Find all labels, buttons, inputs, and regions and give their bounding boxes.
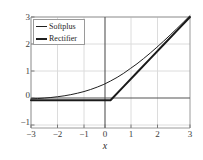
- y-tick-label-1: 1: [12, 67, 30, 76]
- x-tick-label-neg2: −2: [49, 130, 67, 139]
- x-tick-label-neg1: −1: [75, 130, 93, 139]
- legend-item-softplus: Softplus: [36, 21, 76, 32]
- legend-line-icon-softplus: [36, 26, 47, 27]
- y-tick-label-3: 3: [12, 13, 30, 22]
- y-tick-label-neg1: −1: [12, 118, 30, 127]
- x-tick-label-neg3: −3: [22, 130, 40, 139]
- x-tick-label-2: 2: [149, 130, 167, 139]
- y-tick-label-2: 2: [12, 40, 30, 49]
- softplus-rectifier-chart: 3 2 1 0 −1 −3 −2 −1 0 1 2 3 x Softplus R…: [0, 0, 203, 160]
- legend: Softplus Rectifier: [33, 19, 85, 45]
- y-tick-label-0: 0: [12, 91, 30, 100]
- x-axis-label: x: [96, 141, 114, 151]
- legend-line-icon-rectifier: [36, 38, 47, 40]
- legend-label-softplus: Softplus: [49, 23, 76, 31]
- legend-label-rectifier: Rectifier: [49, 35, 77, 43]
- x-tick-label-0: 0: [96, 130, 114, 139]
- legend-item-rectifier: Rectifier: [36, 33, 77, 44]
- x-tick-label-1: 1: [122, 130, 140, 139]
- x-tick-label-3: 3: [181, 130, 199, 139]
